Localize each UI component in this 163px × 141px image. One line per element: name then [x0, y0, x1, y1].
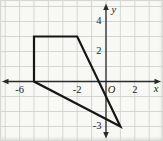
- plot-svg: -6-2242-3 x y O: [1, 1, 162, 140]
- x-axis-label: x: [153, 83, 159, 94]
- y-axis-label: y: [111, 4, 117, 15]
- y-tick-label: -3: [93, 120, 102, 131]
- coordinate-plane-figure: -6-2242-3 x y O: [0, 0, 163, 141]
- x-tick-label: -2: [73, 84, 82, 95]
- y-tick-label: 2: [96, 45, 101, 56]
- grid-lines: [1, 1, 162, 140]
- y-axis-down-arrow-icon: [103, 132, 109, 139]
- y-tick-label: 4: [96, 15, 102, 26]
- axes: [2, 4, 161, 139]
- x-tick-label: -6: [15, 84, 24, 95]
- origin-label: O: [108, 84, 116, 95]
- x-tick-label: 2: [132, 84, 137, 95]
